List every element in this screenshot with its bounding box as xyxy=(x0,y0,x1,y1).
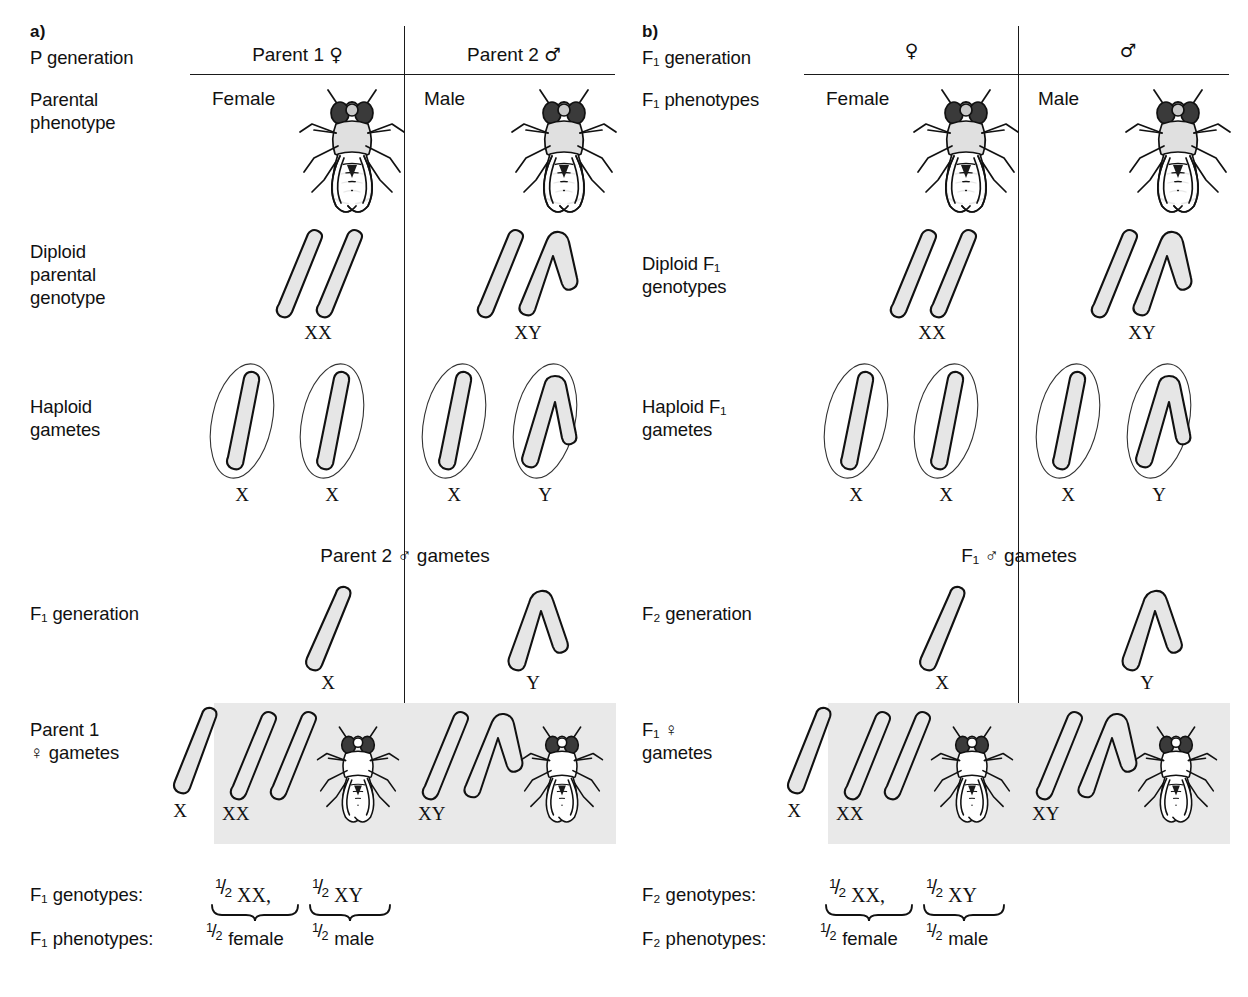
genotype-label-xx-parental: XX xyxy=(268,322,368,344)
panel-b-letter: b) xyxy=(642,22,658,42)
summary-phenotype-male-b: 1/2 male xyxy=(926,926,988,950)
panel-a-letter: a) xyxy=(30,22,46,42)
column-header-parent-1: Parent 1 ♀ xyxy=(190,44,405,66)
header-underline xyxy=(804,74,1229,75)
gamete-cell-x-a3 xyxy=(412,360,496,482)
frac-den: 2 xyxy=(225,885,233,900)
summary-phenotype-female-b: 1/2 female xyxy=(820,926,898,950)
brace-female-a xyxy=(210,903,302,923)
header-underline xyxy=(190,74,615,75)
gamete-label-x-a1: X xyxy=(200,484,284,506)
punnett-top-gamete-label-x-b: X xyxy=(912,672,972,694)
label-parent1-gametes: Parent 1 ♀ gametes xyxy=(30,718,119,764)
label-f2-generation: F₂ generation xyxy=(642,602,752,625)
chromosome-pair-xx-parental xyxy=(268,228,368,320)
punnett-top-gamete-y-b xyxy=(1119,585,1189,675)
punnett-side-gamete-label-x-b: X xyxy=(766,800,822,822)
punnett-cell-chromosomes-xy-b xyxy=(1032,710,1142,802)
frac-den: 2 xyxy=(322,885,330,900)
punnett-cell-fly-female-b xyxy=(930,722,1014,834)
punnett-cell-genotype-xx-b: XX xyxy=(836,803,888,825)
frac-den: 2 xyxy=(936,929,943,943)
punnett-cell-chromosomes-xx-b xyxy=(836,710,936,802)
gamete-label-x-b3: X xyxy=(1026,484,1110,506)
punnett-top-gamete-y-a xyxy=(505,585,575,675)
label-diploid-parental-genotype: Diploid parental genotype xyxy=(30,240,105,309)
column-header-f1-male: ♂ xyxy=(1022,40,1234,62)
label-f1-generation-cross: F₁ generation xyxy=(30,602,139,625)
male-symbol-icon: ♂ xyxy=(1120,40,1137,61)
punnett-top-gamete-label-x-a: X xyxy=(298,672,358,694)
gamete-cell-x-b1 xyxy=(814,360,898,482)
column-header-parent-2-text: Parent 2 xyxy=(467,44,539,65)
punnett-cell-chromosomes-xx-a xyxy=(222,710,322,802)
frac-den: 2 xyxy=(322,929,329,943)
gamete-label-x-b2: X xyxy=(904,484,988,506)
gamete-label-x-a2: X xyxy=(290,484,374,506)
gamete-cell-x-b3 xyxy=(1026,360,1110,482)
frac-den: 2 xyxy=(936,885,944,900)
punnett-side-gamete-x-b xyxy=(782,706,838,798)
panel-b: b) F₁ generation F₁ phenotypes Diploid F… xyxy=(624,0,1248,997)
punnett-top-gamete-label-y-b: Y xyxy=(1112,672,1182,694)
fly-male-parent-2 xyxy=(510,88,618,223)
label-diploid-f1-genotypes: Diploid F₁ genotypes xyxy=(642,252,726,298)
label-parental-phenotype: Parental phenotype xyxy=(30,88,116,134)
brace-female-b xyxy=(824,903,916,923)
summary-phenotype-male-text-b: male xyxy=(948,928,988,949)
punnett-side-gamete-label-x-a: X xyxy=(152,800,208,822)
genotype-label-xy-parental: XY xyxy=(473,322,583,344)
fly-f1-female xyxy=(912,88,1020,223)
punnett-top-title-a: Parent 2 ♂ gametes xyxy=(190,545,620,567)
fly-f1-male xyxy=(1124,88,1232,223)
label-haploid-gametes: Haploid gametes xyxy=(30,395,100,441)
gamete-cell-y-b4 xyxy=(1114,360,1204,482)
gamete-cell-x-a2 xyxy=(290,360,374,482)
column-header-parent-2: Parent 2 ♂ xyxy=(408,44,620,66)
label-f1-phenotypes: F₁ phenotypes xyxy=(642,88,759,111)
gamete-cell-y-a4 xyxy=(500,360,590,482)
column-header-parent-1-text: Parent 1 xyxy=(252,44,324,65)
punnett-cell-fly-male-a xyxy=(520,722,604,834)
gamete-cell-x-a1 xyxy=(200,360,284,482)
summary-genotypes-label-b: F₂ genotypes: xyxy=(642,884,756,906)
fly-female-parent-1 xyxy=(298,88,406,223)
summary-phenotype-female-text-b: female xyxy=(842,928,898,949)
summary-phenotype-female-a: 1/2 female xyxy=(206,926,284,950)
label-p-generation: P generation xyxy=(30,46,133,69)
female-symbol-icon: ♀ xyxy=(329,44,343,65)
gamete-label-x-a3: X xyxy=(412,484,496,506)
label-f1-generation: F₁ generation xyxy=(642,46,751,69)
punnett-top-gamete-label-y-a: Y xyxy=(498,672,568,694)
gamete-label-x-b1: X xyxy=(814,484,898,506)
summary-phenotype-female-text-a: female xyxy=(228,928,284,949)
gamete-label-y-a4: Y xyxy=(500,484,590,506)
punnett-top-gamete-x-a xyxy=(300,585,360,675)
panel-a: a) P generation Parental phenotype Diplo… xyxy=(0,0,624,997)
frac-den: 2 xyxy=(839,885,847,900)
gamete-label-y-b4: Y xyxy=(1114,484,1204,506)
frac-den: 2 xyxy=(216,929,223,943)
punnett-cell-genotype-xx-a: XX xyxy=(222,803,274,825)
genetics-figure: a) P generation Parental phenotype Diplo… xyxy=(0,0,1248,997)
punnett-cell-chromosomes-xy-a xyxy=(418,710,528,802)
female-symbol-icon: ♀ xyxy=(905,40,919,61)
label-f1-female-gametes: F₁ ♀ gametes xyxy=(642,718,712,764)
summary-phenotypes-label-a: F₁ phenotypes: xyxy=(30,928,153,950)
punnett-cell-fly-female-a xyxy=(316,722,400,834)
gamete-cell-x-b2 xyxy=(904,360,988,482)
label-haploid-f1-gametes: Haploid F₁ gametes xyxy=(642,395,726,441)
summary-phenotype-male-text-a: male xyxy=(334,928,374,949)
chromosome-pair-xy-f1 xyxy=(1087,228,1197,320)
punnett-top-title-b: F₁ ♂ gametes xyxy=(804,545,1234,567)
punnett-top-gamete-x-b xyxy=(914,585,974,675)
chromosome-pair-xy-parental xyxy=(473,228,583,320)
frac-den: 2 xyxy=(830,929,837,943)
punnett-cell-genotype-xy-b: XY xyxy=(1032,803,1084,825)
genotype-label-xx-f1: XX xyxy=(882,322,982,344)
genotype-label-xy-f1: XY xyxy=(1087,322,1197,344)
summary-genotypes-label-a: F₁ genotypes: xyxy=(30,884,143,906)
punnett-cell-genotype-xy-a: XY xyxy=(418,803,470,825)
chromosome-pair-xx-f1 xyxy=(882,228,982,320)
summary-phenotype-male-a: 1/2 male xyxy=(312,926,374,950)
